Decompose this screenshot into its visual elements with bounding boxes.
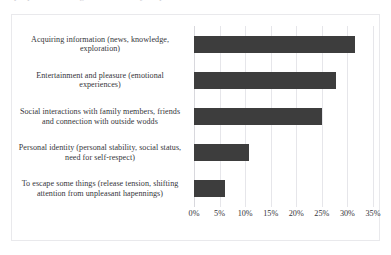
bar: [194, 72, 336, 89]
x-tick-label: 5%: [214, 209, 225, 218]
category-label: To escape some things (release tension, …: [16, 179, 184, 198]
bar: [194, 180, 225, 197]
category-label: Acquiring information (news, knowledge, …: [16, 35, 184, 54]
x-tick-label: 20%: [289, 209, 304, 218]
gridline-35%: [373, 26, 374, 207]
category-label: Entertainment and pleasure (emotional ex…: [16, 71, 184, 90]
chart-frame: Acquiring information (news, knowledge, …: [11, 14, 380, 241]
x-tick-label: 25%: [314, 209, 329, 218]
category-label: Personal identity (personal stability, s…: [16, 143, 184, 162]
cut-off-header-sliver: purposes of using the internet by respon…: [0, 0, 391, 9]
x-tick-label: 35%: [365, 209, 380, 218]
gridline-25%: [322, 26, 323, 207]
bar: [194, 144, 249, 161]
plot-area: Acquiring information (news, knowledge, …: [194, 26, 373, 207]
category-label: Social interactions with family members,…: [16, 107, 184, 126]
gridline-30%: [347, 26, 348, 207]
cut-off-header-text: purposes of using the internet by respon…: [14, 0, 195, 1]
bar: [194, 36, 355, 53]
x-tick-label: 15%: [263, 209, 278, 218]
x-tick-label: 10%: [238, 209, 253, 218]
x-axis-tick-labels: 0%5%10%15%20%25%30%35%: [194, 209, 373, 223]
x-tick-label: 0%: [189, 209, 200, 218]
bar: [194, 108, 322, 125]
x-tick-label: 30%: [340, 209, 355, 218]
